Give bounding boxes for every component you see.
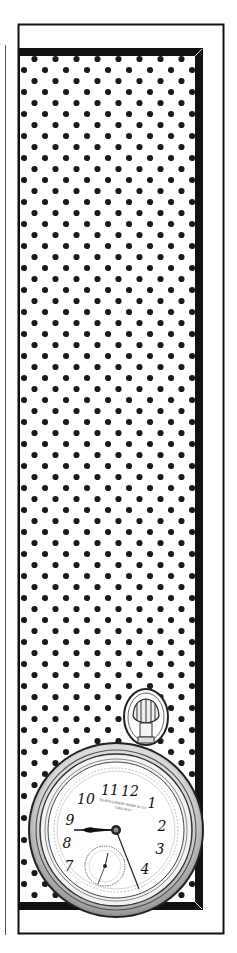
numeral-1: 1 <box>148 795 157 811</box>
numeral-11: 11 <box>101 782 119 798</box>
sub-seconds-dial <box>85 846 125 886</box>
watch-advertisement-illustration: 12 1 2 3 4 7 8 9 10 11 MONTGOMERY WARD &… <box>0 0 237 953</box>
numeral-10: 10 <box>77 791 95 807</box>
numeral-3: 3 <box>156 841 165 857</box>
numeral-9: 9 <box>66 812 75 828</box>
numeral-7: 7 <box>65 858 74 874</box>
numeral-8: 8 <box>63 835 72 851</box>
numeral-2: 2 <box>157 818 167 834</box>
numeral-12: 12 <box>121 783 139 799</box>
numeral-4: 4 <box>140 861 150 877</box>
